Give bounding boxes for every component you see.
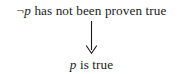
conclusion-text: is true — [77, 57, 114, 72]
arrow-down-glyph — [80, 20, 104, 56]
premise-variable: p — [24, 3, 31, 18]
conclusion-statement: p is true — [0, 58, 183, 71]
conclusion-variable: p — [70, 57, 77, 72]
inference-diagram: ¬p has not been proven true p is true — [0, 0, 183, 74]
premise-statement: ¬p has not been proven true — [0, 4, 183, 17]
arrow-down-icon — [80, 20, 104, 56]
negation-icon: ¬ — [17, 3, 24, 18]
premise-text: has not been proven true — [31, 3, 166, 18]
